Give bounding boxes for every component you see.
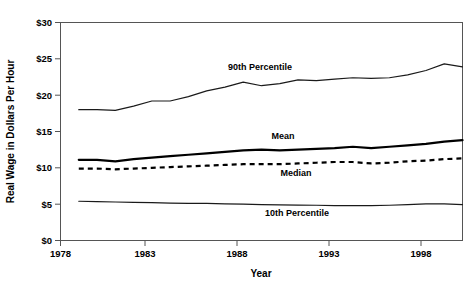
x-tick-label: 1978 [50,248,71,259]
y-tick-label: $30 [36,17,52,28]
y-axis-ticks [55,23,61,241]
series-label-10th-percentile: 10th Percentile [265,208,329,218]
y-tick-labels: $30 $25 $20 $15 $10 $5 $0 [36,17,53,246]
figure-caption [40,283,440,293]
y-axis-title: Real Wage in Dollars Per Hour [5,60,16,204]
plot-frame [61,23,463,241]
x-axis-ticks [61,241,422,247]
y-tick-label: $0 [41,235,52,246]
y-tick-label: $20 [36,90,52,101]
x-tick-label: 1988 [226,248,247,259]
x-tick-label: 1993 [318,248,339,259]
x-axis-title: Year [250,268,271,279]
x-tick-labels: 1978 1983 1988 1993 1998 [50,248,432,259]
y-tick-label: $15 [36,126,53,137]
x-tick-label: 1998 [410,248,431,259]
wage-percentile-line-chart: $30 $25 $20 $15 $10 $5 $0 1978 1983 1988… [0,0,471,293]
series-label-90th-percentile: 90th Percentile [228,62,292,72]
series-label-mean: Mean [271,131,294,141]
y-tick-label: $10 [36,162,52,173]
y-tick-label: $25 [36,53,53,64]
figure-container: $30 $25 $20 $15 $10 $5 $0 1978 1983 1988… [0,0,471,293]
y-tick-label: $5 [41,199,52,210]
x-tick-label: 1983 [134,248,155,259]
series-label-median: Median [280,168,311,178]
